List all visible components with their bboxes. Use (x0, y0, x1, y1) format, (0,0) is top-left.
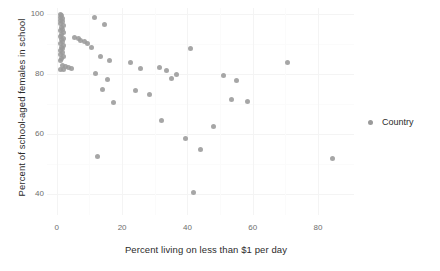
gridline-vertical (253, 8, 254, 215)
x-tick-label: 60 (241, 223, 265, 232)
data-point (102, 22, 107, 27)
data-point (157, 65, 162, 70)
data-point (330, 156, 335, 161)
plot-panel (47, 8, 354, 215)
data-point (198, 147, 203, 152)
x-tick-label: 40 (175, 223, 199, 232)
y-tick-label: 60 (22, 129, 44, 138)
gridline-horizontal-minor (47, 164, 354, 165)
data-point (100, 87, 105, 92)
gridline-horizontal (47, 194, 354, 195)
data-point (147, 92, 152, 97)
gridline-vertical-minor (155, 8, 156, 215)
data-point (229, 97, 234, 102)
data-point (138, 66, 143, 71)
legend-label-country: Country (382, 117, 414, 127)
data-point (221, 73, 226, 78)
data-point (174, 72, 179, 77)
x-axis-title: Percent living on less than $1 per day (61, 244, 351, 255)
data-point (245, 99, 250, 104)
data-point (133, 88, 138, 93)
data-point (95, 154, 100, 159)
gridline-vertical-minor (220, 8, 221, 215)
gridline-vertical-minor (89, 8, 90, 215)
data-point (98, 54, 103, 59)
data-point (159, 118, 164, 123)
gridline-vertical-minor (285, 8, 286, 215)
y-tick-label: 80 (22, 69, 44, 78)
gridline-horizontal-minor (47, 104, 354, 105)
data-point (93, 71, 98, 76)
gridline-vertical (318, 8, 319, 215)
data-point (285, 60, 290, 65)
data-point (234, 78, 239, 83)
y-axis-tick-labels: 406080100 (14, 0, 44, 271)
data-point (169, 76, 174, 81)
gridline-vertical (57, 8, 58, 215)
y-tick-label: 40 (22, 189, 44, 198)
gridline-vertical (187, 8, 188, 215)
legend: Country (368, 117, 414, 127)
y-tick-label: 100 (22, 9, 44, 18)
scatter-plot: Percent of school-aged females in school… (0, 0, 440, 271)
data-point (188, 46, 193, 51)
x-tick-label: 0 (45, 223, 69, 232)
data-point (105, 77, 110, 82)
x-tick-label: 20 (110, 223, 134, 232)
legend-marker-icon (368, 120, 373, 125)
data-point (61, 67, 66, 72)
data-point (211, 124, 216, 129)
gridline-horizontal (47, 134, 354, 135)
gridline-vertical (122, 8, 123, 215)
data-point (128, 60, 133, 65)
data-point (69, 66, 74, 71)
data-point (164, 68, 169, 73)
x-tick-label: 80 (306, 223, 330, 232)
data-point (107, 58, 112, 63)
data-point (89, 45, 94, 50)
data-point (92, 15, 97, 20)
